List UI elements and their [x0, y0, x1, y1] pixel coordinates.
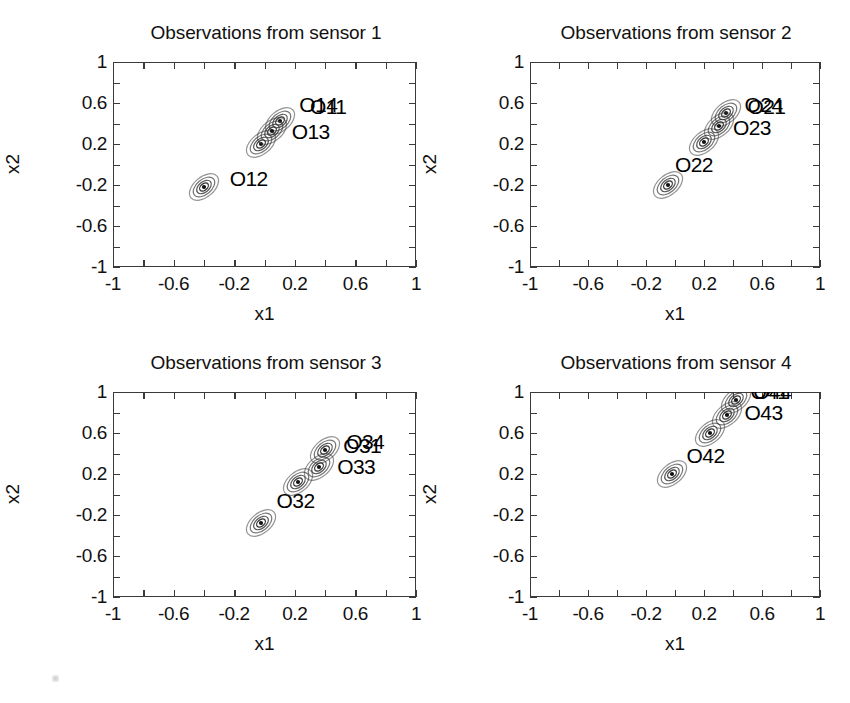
y-tick-label: 0.6 [468, 422, 524, 444]
y-tick-label: -1 [468, 586, 524, 608]
x-tick-top [820, 392, 821, 399]
y-tick-label: 1 [468, 381, 524, 403]
scan-artifact [52, 675, 59, 682]
y-tick-label: -0.2 [468, 504, 524, 526]
y-tick-left [530, 597, 537, 598]
y-tick-right [813, 597, 820, 598]
panel-title-sensor-4: Observations from sensor 4 [476, 352, 850, 374]
y-axis-title: x2 [419, 482, 441, 506]
contour-ellipses [688, 411, 732, 455]
observation-label: O44 [753, 392, 791, 404]
figure-canvas: Observations from sensor 1-1-0.6-0.20.20… [0, 0, 850, 703]
panel-sensor-4: Observations from sensor 4-1-0.6-0.20.20… [0, 0, 850, 703]
y-tick-label: 0.2 [468, 463, 524, 485]
x-axis-title: x1 [665, 633, 685, 655]
x-tick-label: 0.2 [691, 603, 716, 625]
x-tick-label: -0.2 [630, 603, 661, 625]
x-tick-bottom [820, 590, 821, 597]
x-tick-label: -1 [522, 603, 538, 625]
x-tick-label: -0.6 [572, 603, 603, 625]
plot-content-sensor-4: O41O42O43O44 [530, 392, 820, 597]
y-tick-label: -0.6 [468, 545, 524, 567]
x-tick-label: 1 [815, 603, 825, 625]
x-tick-label: 0.6 [749, 603, 774, 625]
observation-label: O43 [745, 401, 783, 425]
